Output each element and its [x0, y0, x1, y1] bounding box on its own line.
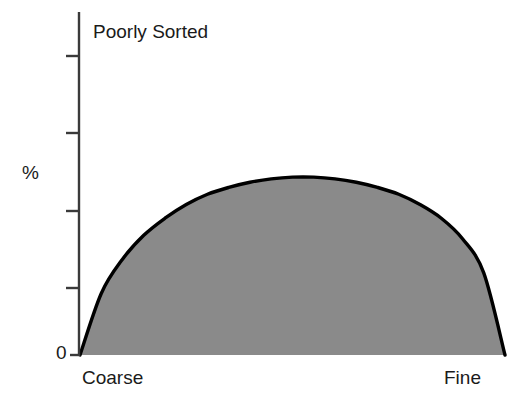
y-axis-label: %: [22, 163, 39, 182]
chart-figure: Poorly Sorted % 0 Coarse Fine: [0, 0, 527, 415]
x-axis-label-coarse: Coarse: [82, 368, 143, 387]
y-axis-ticks: [66, 56, 79, 355]
chart-title: Poorly Sorted: [93, 22, 208, 41]
x-axis-label-fine: Fine: [444, 368, 481, 387]
distribution-area-fill: [80, 177, 505, 355]
chart-plot-area: [0, 0, 527, 415]
y-axis-zero-tick-label: 0: [56, 343, 67, 362]
